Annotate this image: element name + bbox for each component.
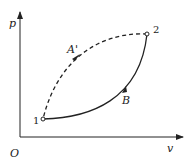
- point-2: [145, 32, 149, 36]
- path-a-prime-label: A': [66, 43, 78, 56]
- origin-label: O: [10, 147, 19, 160]
- pv-diagram: p v O 1 2 A' B: [0, 0, 190, 164]
- point-2-label: 2: [153, 24, 159, 35]
- path-b: [43, 34, 147, 119]
- point-1: [41, 117, 45, 121]
- y-axis-label: p: [9, 17, 16, 30]
- point-1-label: 1: [33, 115, 39, 126]
- x-axis-label: v: [167, 142, 174, 155]
- path-a-prime: [43, 34, 147, 119]
- path-b-label: B: [121, 94, 130, 107]
